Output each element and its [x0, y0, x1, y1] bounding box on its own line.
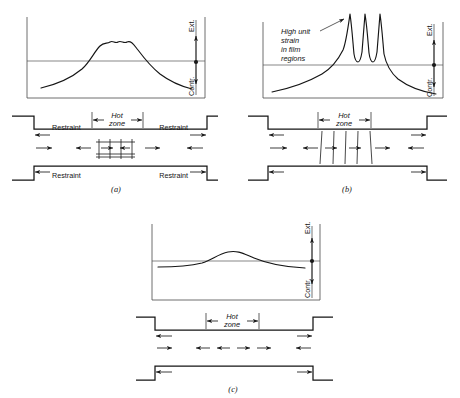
panel-a-axis-label-ext: Ext. — [187, 20, 196, 32]
panel-b-axis-origin-dot — [432, 63, 436, 67]
panel-c-axis-label-ext: Ext. — [303, 222, 312, 234]
panel-a-axis-origin-dot — [194, 60, 198, 64]
panel-b-hotzone-label-line2: zone — [335, 119, 352, 128]
thermal-strain-figure: Ext. Contr. Hot zone Restraint Restraint — [0, 0, 460, 398]
panel-c-hotzone-label-line2: zone — [223, 320, 240, 329]
figure-background — [0, 0, 460, 398]
panel-c-axis-label-contr: Contr. — [303, 279, 312, 298]
panel-b-annotation-line3: in film — [281, 45, 300, 54]
panel-a-restraint-label-ll: Restraint — [52, 171, 81, 180]
panel-b-annotation-line1: High unit — [281, 27, 311, 36]
panel-b-annotation-line2: strain — [281, 36, 299, 45]
panel-a-restraint-label-ur: Restraint — [159, 123, 188, 132]
panel-c-label: (c) — [228, 385, 238, 394]
panel-b-label: (b) — [342, 185, 352, 194]
panel-a-hotzone-label-line2: zone — [108, 119, 125, 128]
panel-a-label: (a) — [111, 185, 121, 194]
figure-root: Ext. Contr. Hot zone Restraint Restraint — [0, 0, 460, 398]
panel-b-axis-label-ext: Ext. — [425, 24, 434, 36]
panel-c-axis-origin-dot — [310, 259, 314, 263]
panel-a-axis-label-contr: Contr. — [187, 77, 196, 96]
panel-a-restraint-label-lr: Restraint — [159, 171, 188, 180]
panel-b-axis-label-contr: Contr. — [425, 78, 434, 97]
panel-a-restraint-label-ul: Restraint — [52, 123, 81, 132]
panel-b-annotation-line4: regions — [281, 54, 306, 63]
